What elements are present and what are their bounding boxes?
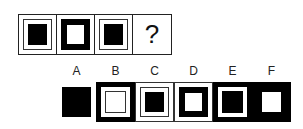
option-label-b: B (96, 64, 135, 78)
black-square-icon (104, 24, 123, 45)
options-row (57, 82, 291, 122)
sequence-row: ? (18, 14, 172, 55)
option-b[interactable] (96, 82, 135, 122)
black-square-icon (28, 24, 47, 45)
option-label-d: D (174, 64, 213, 78)
option-label-a: A (57, 64, 96, 78)
sequence-cell-2 (57, 15, 95, 54)
option-label-f: F (252, 64, 291, 78)
option-label-c: C (135, 64, 174, 78)
large-black-square-icon (62, 87, 91, 117)
option-c[interactable] (135, 82, 174, 122)
sequence-cell-1 (19, 15, 57, 54)
question-mark: ? (133, 15, 171, 54)
sequence-cell-missing: ? (133, 15, 171, 54)
option-f[interactable] (252, 82, 291, 122)
option-d[interactable] (174, 82, 213, 122)
white-square-icon (67, 25, 84, 44)
black-square-icon (145, 92, 164, 112)
option-a[interactable] (57, 82, 96, 122)
sequence-cell-3 (95, 15, 133, 54)
white-square-icon (185, 93, 202, 111)
option-label-e: E (213, 64, 252, 78)
black-square-icon (222, 91, 243, 113)
outlined-white-square-icon (105, 91, 126, 113)
option-e[interactable] (213, 82, 252, 122)
white-square-icon (262, 92, 281, 112)
